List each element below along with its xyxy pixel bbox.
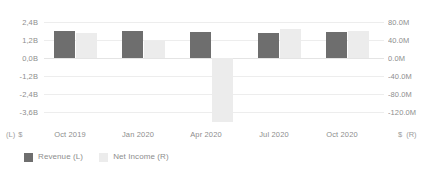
right-y-axis: 80.0M 40.0M 0.0M -40.0M -80.0M -120.0M — [388, 0, 436, 172]
plot-area — [44, 16, 384, 122]
left-y-tick: -1,2B — [20, 72, 38, 81]
right-axis-currency-symbol: $ — [398, 130, 402, 139]
x-tick-label: Oct 2020 — [307, 130, 377, 139]
left-y-axis: 2,4B 1,2B 0,0B -1,2B -2,4B -3,6B — [0, 0, 40, 172]
bar-revenue[interactable] — [190, 32, 211, 58]
legend-swatch-net-income-icon — [99, 153, 108, 162]
legend-item-net-income[interactable]: Net Income (R) — [99, 152, 169, 162]
left-y-tick: 2,4B — [22, 18, 38, 27]
x-tick-label: Oct 2019 — [35, 130, 105, 139]
right-y-tick: -40.0M — [388, 72, 412, 81]
bar-net-income[interactable] — [76, 33, 97, 58]
x-tick-label: Jul 2020 — [239, 130, 309, 139]
left-axis-side-label: (L) — [6, 130, 15, 139]
chart-legend: Revenue (L) Net Income (R) — [24, 152, 178, 162]
right-y-tick: -120.0M — [388, 108, 416, 117]
left-axis-currency-symbol: $ — [18, 130, 22, 139]
right-y-tick: -80.0M — [388, 90, 412, 99]
legend-label-net-income: Net Income (R) — [113, 152, 169, 162]
left-y-tick: -2,4B — [20, 90, 38, 99]
bar-revenue[interactable] — [54, 31, 75, 58]
bar-net-income[interactable] — [212, 58, 233, 122]
legend-item-revenue[interactable]: Revenue (L) — [24, 152, 83, 162]
x-tick-label: Jan 2020 — [103, 130, 173, 139]
left-y-tick: 1,2B — [22, 36, 38, 45]
financial-bar-chart: 2,4B 1,2B 0,0B -1,2B -2,4B -3,6B 80.0M 4… — [0, 0, 436, 172]
left-axis-unit: (L)$ — [6, 130, 22, 139]
right-axis-side-label: (R) — [406, 130, 416, 139]
legend-swatch-revenue-icon — [24, 153, 33, 162]
legend-label-revenue: Revenue (L) — [38, 152, 83, 162]
left-y-tick: -3,6B — [20, 108, 38, 117]
left-y-tick: 0,0B — [22, 54, 38, 63]
bar-revenue[interactable] — [122, 31, 143, 58]
right-y-tick: 0.0M — [388, 54, 405, 63]
right-y-tick: 40.0M — [388, 36, 409, 45]
right-axis-unit: $(R) — [398, 130, 417, 139]
gridline — [44, 22, 384, 23]
right-y-tick: 80.0M — [388, 18, 409, 27]
bar-revenue[interactable] — [258, 33, 279, 58]
x-tick-label: Apr 2020 — [171, 130, 241, 139]
bar-revenue[interactable] — [326, 32, 347, 58]
bar-net-income[interactable] — [280, 29, 301, 58]
bar-net-income[interactable] — [348, 31, 369, 58]
bar-net-income[interactable] — [144, 41, 165, 58]
